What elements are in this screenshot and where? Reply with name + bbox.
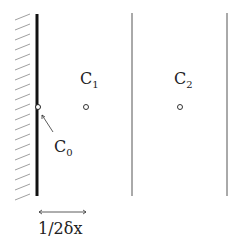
pointer-arrow-icon: [42, 115, 53, 132]
label-c1: C1: [80, 69, 99, 90]
label-c0: C0: [54, 137, 73, 158]
label-c2: C2: [174, 69, 193, 90]
diagram-canvas: C1 C2 C0 1/2δx: [0, 0, 241, 248]
wall-hatching: [15, 14, 30, 200]
node-c2: [178, 105, 183, 110]
node-c0: [36, 105, 41, 110]
node-c1: [84, 105, 89, 110]
dimension-label: 1/2δx: [38, 219, 82, 238]
dimension-arrow-icon: [39, 210, 86, 214]
